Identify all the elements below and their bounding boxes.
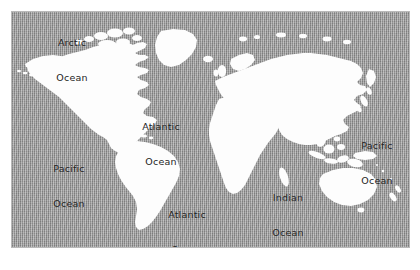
land-indonesia xyxy=(306,131,364,169)
world-map-page: Arctic Ocean Atlantic Ocean Pacific Ocea… xyxy=(0,0,420,270)
land-australia xyxy=(319,168,377,206)
land-iceland xyxy=(203,56,213,62)
map-plate: Arctic Ocean Atlantic Ocean Pacific Ocea… xyxy=(11,11,410,248)
land-new-guinea xyxy=(353,151,377,160)
land-sri-lanka xyxy=(307,137,311,142)
land-northern-islands xyxy=(239,33,351,45)
land-pacific-islands xyxy=(376,164,392,180)
land-greenland xyxy=(155,29,197,67)
world-map-svg xyxy=(11,11,410,248)
land-kamchatka xyxy=(366,69,376,87)
land-tasmania xyxy=(358,208,365,213)
land-british-isles xyxy=(214,65,227,77)
land-south-america xyxy=(115,141,180,230)
land-new-zealand xyxy=(388,184,402,202)
land-madagascar xyxy=(277,166,291,187)
